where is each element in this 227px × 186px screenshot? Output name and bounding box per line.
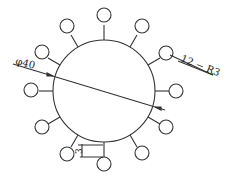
hole-ring [24, 8, 183, 171]
offset-label: 3 [74, 148, 84, 154]
holes-count-label: 12 − R3 [179, 53, 221, 79]
diameter-label: φ40 [15, 55, 37, 70]
technical-drawing: φ40 12 − R3 3 [0, 0, 227, 186]
diameter-dimension-line [13, 64, 165, 110]
